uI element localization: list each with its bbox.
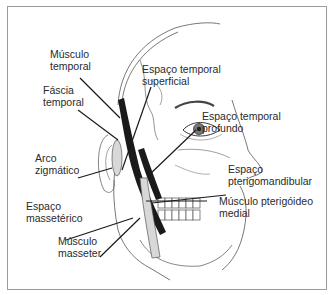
label-fascia-temporal: Fáscia temporal xyxy=(43,84,84,108)
eyebrow xyxy=(175,102,214,108)
label-arco-zigmatico: Arco zigmático xyxy=(35,152,79,176)
zygomatic-arch xyxy=(112,140,122,176)
label-musculo-masseter: Músculo masseter xyxy=(58,235,101,259)
label-espaco-temporal-profundo: Espaço temporal profundo xyxy=(202,110,281,134)
label-espaco-masseterico: Espaço massetérico xyxy=(26,200,83,224)
skull-outline xyxy=(98,23,262,280)
label-espaco-pterigomandibular: Espaço pterigomandibular xyxy=(228,163,312,187)
label-musculo-temporal: Músculo temporal xyxy=(50,48,91,72)
label-espaco-temporal-superficial: Espaço temporal superficial xyxy=(142,63,221,87)
label-musculo-pterigoideo-medial: Músculo pterigóideo medial xyxy=(219,195,313,219)
head-illustration xyxy=(0,0,332,295)
